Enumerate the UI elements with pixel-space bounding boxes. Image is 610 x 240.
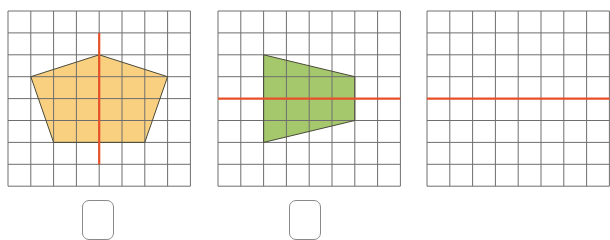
grid-panel-partial — [426, 10, 610, 187]
answer-box-1[interactable] — [82, 200, 114, 240]
grid-pentagon — [7, 10, 191, 187]
grid-panel-pentagon — [7, 10, 191, 187]
answer-box-2[interactable] — [289, 200, 321, 240]
grid-partial — [426, 10, 610, 187]
grid-panel-trapezoid — [217, 10, 401, 187]
grid-trapezoid — [217, 10, 401, 187]
